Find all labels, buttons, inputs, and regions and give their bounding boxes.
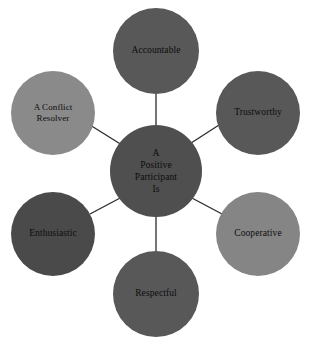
node-enthusiastic-label: Enthusiastic bbox=[25, 228, 81, 239]
connector-center-enthusiastic bbox=[90, 197, 122, 214]
node-cooperative[interactable]: Cooperative bbox=[216, 192, 300, 276]
node-trustworthy-label: Trustworthy bbox=[230, 107, 286, 118]
diagram-canvas: Accountable Trustworthy Cooperative Resp… bbox=[0, 0, 311, 343]
node-cooperative-label: Cooperative bbox=[230, 228, 286, 239]
node-center-hub[interactable]: APositiveParticipantIs bbox=[110, 125, 202, 217]
node-conflict-resolver[interactable]: A ConflictResolver bbox=[11, 71, 95, 155]
node-conflict-resolver-label: A ConflictResolver bbox=[30, 102, 77, 123]
node-trustworthy[interactable]: Trustworthy bbox=[216, 71, 300, 155]
node-respectful-label: Respectful bbox=[131, 288, 181, 299]
node-respectful[interactable]: Respectful bbox=[113, 251, 199, 337]
node-accountable[interactable]: Accountable bbox=[113, 8, 199, 94]
connector-center-cooperative bbox=[190, 197, 222, 214]
node-center-label: APositiveParticipantIs bbox=[131, 147, 181, 196]
node-enthusiastic[interactable]: Enthusiastic bbox=[11, 192, 95, 276]
connector-center-trustworthy bbox=[188, 125, 219, 145]
connector-center-conflict-resolver bbox=[90, 125, 122, 145]
node-accountable-label: Accountable bbox=[127, 45, 184, 56]
